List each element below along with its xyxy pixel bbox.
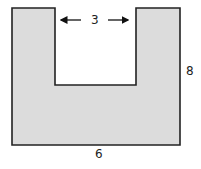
height-label: 8 [186,65,194,77]
u-shape [12,8,180,145]
u-shape-diagram [0,0,201,169]
base-width-label: 6 [95,148,103,160]
notch-width-label: 3 [91,14,99,26]
